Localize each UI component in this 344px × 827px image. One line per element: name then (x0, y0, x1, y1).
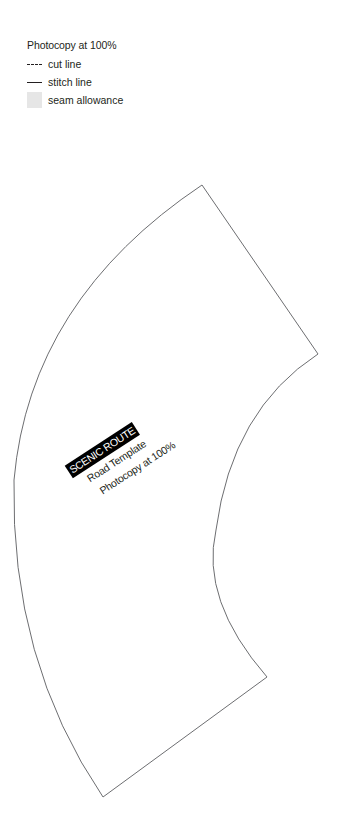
road-curve-shape (14, 185, 318, 797)
